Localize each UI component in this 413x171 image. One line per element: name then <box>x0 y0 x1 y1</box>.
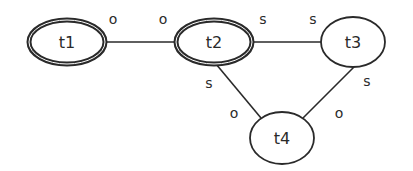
node-t2: t2 <box>176 20 252 64</box>
graph-diagram: t1 t2 t3 t4 o o s s s o s o <box>0 0 413 171</box>
edge-label-t1-t2-from: o <box>109 11 118 27</box>
node-t1: t1 <box>29 20 105 64</box>
edge-t3-t4 <box>303 67 354 118</box>
edge-label-t2-t3-to: s <box>309 11 316 27</box>
node-t3: t3 <box>321 17 385 67</box>
edge-label-t2-t4-from: s <box>205 75 212 91</box>
node-t4: t4 <box>250 112 314 164</box>
node-label-t4: t4 <box>274 129 290 148</box>
edge-label-t2-t4-to: o <box>230 105 239 121</box>
node-label-t3: t3 <box>345 33 361 52</box>
edge-label-t1-t2-to: o <box>159 11 168 27</box>
edge-label-t2-t3-from: s <box>259 11 266 27</box>
node-label-t2: t2 <box>206 33 222 52</box>
edge-label-t3-t4-to: o <box>335 105 344 121</box>
edge-t2-t4 <box>216 64 261 118</box>
node-label-t1: t1 <box>59 33 75 52</box>
edge-label-t3-t4-from: s <box>363 73 370 89</box>
